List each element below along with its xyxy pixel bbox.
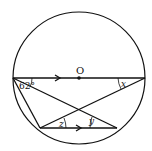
chord-cross-1: [34, 88, 117, 128]
angle-arc-z: [64, 118, 66, 128]
circle-geometry-diagram: O 62° x z y: [0, 0, 152, 151]
angle-x-label: x: [121, 79, 126, 89]
angle-62-label: 62°: [19, 81, 35, 91]
angle-z-label: z: [58, 119, 64, 129]
angle-y-label: y: [88, 116, 95, 126]
center-label: O: [76, 65, 84, 76]
center-point: [77, 76, 81, 80]
